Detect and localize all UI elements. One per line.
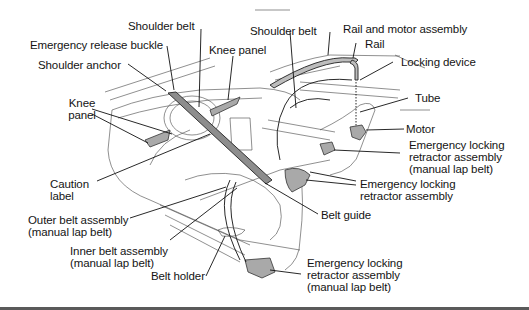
label-inner-belt: Inner belt assembly (manual lap belt)	[70, 245, 168, 269]
label-shoulder-belt-right: Shoulder belt	[250, 25, 316, 37]
rail-vertical	[350, 60, 358, 80]
label-caution-label-line2: label	[50, 190, 89, 202]
label-elr-lap-right-line2: retractor assembly	[409, 151, 504, 163]
label-elr-right-line1: Emergency locking	[360, 178, 455, 190]
label-outer-belt-line1: Outer belt assembly	[28, 214, 128, 226]
label-knee-panel-left-line1: Knee	[59, 97, 105, 109]
label-elr-right: Emergency locking retractor assembly	[360, 178, 455, 202]
label-emergency-release-buckle: Emergency release buckle	[30, 39, 163, 51]
label-elr-lap-right-line1: Emergency locking	[409, 139, 504, 151]
label-inner-belt-line1: Inner belt assembly	[70, 245, 168, 257]
label-elr-lap-right-line3: (manual lap belt)	[409, 163, 504, 175]
label-locking-device: Locking device	[401, 56, 476, 68]
label-rail: Rail	[365, 38, 384, 50]
label-elr-bottom-line3: (manual lap belt)	[307, 281, 402, 293]
label-elr-right-line2: retractor assembly	[360, 190, 455, 202]
label-knee-panel-top: Knee panel	[209, 44, 266, 56]
inner-belt	[231, 182, 246, 262]
motor	[350, 125, 366, 140]
label-outer-belt: Outer belt assembly (manual lap belt)	[28, 214, 128, 238]
label-shoulder-anchor: Shoulder anchor	[38, 59, 121, 71]
elr-lap-right	[320, 142, 335, 155]
label-motor: Motor	[406, 123, 435, 135]
label-outer-belt-line2: (manual lap belt)	[28, 226, 128, 238]
label-rail-and-motor-assembly: Rail and motor assembly	[343, 23, 467, 35]
label-belt-guide: Belt guide	[321, 209, 371, 221]
label-caution-label-line1: Caution	[50, 178, 89, 190]
label-knee-panel-left-line2: panel	[59, 109, 105, 121]
rail-assembly	[270, 58, 358, 88]
label-elr-bottom: Emergency locking retractor assembly (ma…	[307, 257, 402, 293]
label-belt-holder: Belt holder	[151, 270, 205, 282]
label-elr-bottom-line1: Emergency locking	[307, 257, 402, 269]
label-elr-bottom-line2: retractor assembly	[307, 269, 402, 281]
label-inner-belt-line2: (manual lap belt)	[70, 257, 168, 269]
leader-lines	[92, 29, 408, 276]
label-tube: Tube	[415, 92, 440, 104]
label-shoulder-belt-left: Shoulder belt	[128, 20, 194, 32]
label-elr-lap-right: Emergency locking retractor assembly (ma…	[409, 139, 504, 175]
label-knee-panel-left: Knee panel	[59, 97, 105, 121]
elr-bottom	[245, 258, 275, 278]
label-caution-label: Caution label	[50, 178, 89, 202]
